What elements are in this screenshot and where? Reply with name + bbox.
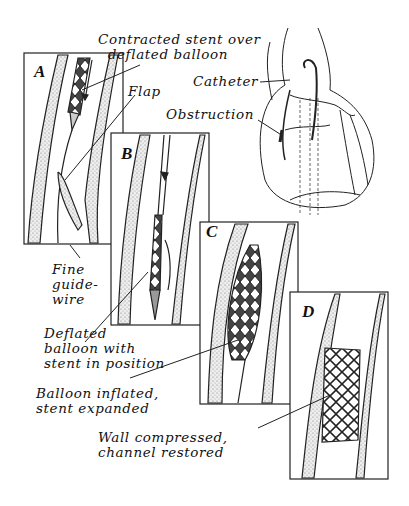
label-wall-compressed: Wall compressed, channel restored (98, 430, 228, 460)
label-balloon-inflated: Balloon inflated, stent expanded (36, 386, 159, 416)
panel-letter-d: D (302, 302, 314, 322)
panel-letter-a: A (34, 62, 45, 82)
label-catheter: Catheter (193, 74, 258, 89)
label-fine-guidewire: Fine guide- wire (52, 262, 98, 307)
heart-illustration (260, 28, 374, 215)
panel-c (200, 222, 298, 404)
label-deflated-balloon: Deflated balloon with stent in position (44, 326, 165, 371)
label-obstruction: Obstruction (166, 107, 254, 122)
panel-letter-c: C (206, 222, 217, 242)
panel-letter-b: B (121, 144, 132, 164)
label-flap: Flap (128, 84, 161, 99)
label-contracted-stent: Contracted stent over deflated balloon (98, 32, 261, 62)
